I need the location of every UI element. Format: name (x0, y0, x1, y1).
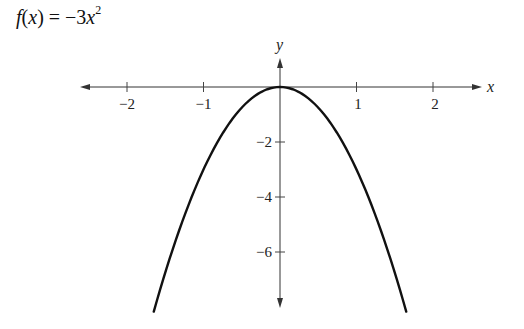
y-axis: −2 −4 −6 y (256, 36, 285, 308)
x-axis-right-arrow-icon (472, 84, 482, 90)
y-axis-up-arrow-icon (277, 58, 283, 68)
y-tick-label: −2 (256, 134, 272, 150)
x-axis: −2 −1 1 2 x (80, 78, 494, 112)
x-tick-label: 2 (431, 96, 439, 112)
y-axis-label: y (274, 36, 284, 54)
x-tick-label: −1 (196, 96, 212, 112)
y-tick-label: −6 (256, 244, 272, 260)
x-axis-left-arrow-icon (80, 84, 90, 90)
y-tick-label: −4 (256, 189, 272, 205)
chart-canvas: −2 −1 1 2 x −2 −4 −6 y (0, 0, 524, 329)
x-tick-label: 1 (354, 96, 362, 112)
x-tick-label: −2 (119, 96, 135, 112)
x-axis-label: x (486, 78, 494, 95)
y-axis-down-arrow-icon (277, 298, 283, 308)
